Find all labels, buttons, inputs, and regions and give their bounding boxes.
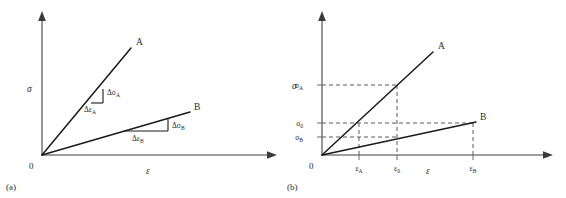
panel-a-curve-label-B: B — [194, 102, 200, 112]
panel-b-x-tick-label-eps-A: εA — [355, 164, 362, 174]
panel-b-x-tick-label-eps-0-sub: 0 — [397, 168, 400, 174]
panel-b-curve-label-A: A — [438, 41, 445, 51]
panel-a-delta-sigma-A-base: Δσ — [107, 88, 116, 97]
figure-root: A B σ ε 0 ΔσA ΔεA ΔσB ΔεB (a) — [0, 0, 566, 198]
panel-b-x-axis-label: ε — [426, 166, 430, 176]
panel-b-curve-B — [322, 122, 476, 155]
panel-b-curve-label-B: B — [480, 112, 486, 122]
panel-b-y-tick-label-sigma-0: σ0 — [296, 119, 303, 129]
panel-b-caption: (b) — [287, 182, 298, 192]
panel-a-curve-label-A: A — [136, 37, 143, 47]
panel-a-y-axis-label: σ — [27, 84, 32, 94]
panel-a-x-axis-label: ε — [146, 166, 150, 176]
panel-b: A B σ ε 0 σA σ0 σB εA ε0 εB (b) — [283, 0, 566, 198]
panel-a-delta-eps-A-sub: A — [92, 109, 96, 115]
panel-a-caption: (a) — [6, 182, 16, 192]
panel-a-origin-label: 0 — [29, 161, 34, 171]
panel-a-delta-eps-A-base: Δε — [84, 105, 92, 114]
panel-b-x-tick-label-eps-0: ε0 — [394, 164, 400, 174]
panel-b-y-tick-label-sigma-B: σB — [295, 133, 303, 143]
panel-b-y-tick-label-sigma-B-sub: B — [299, 137, 303, 143]
panel-a-delta-sigma-B-label: ΔσB — [172, 121, 185, 131]
panel-a-delta-eps-B-label: ΔεB — [132, 134, 144, 144]
panel-a-delta-sigma-A-sub: A — [116, 92, 120, 98]
panel-a-delta-sigma-B-base: Δσ — [172, 121, 181, 130]
panel-a-delta-eps-A-label: ΔεA — [84, 105, 96, 115]
panel-a-delta-eps-B-base: Δε — [132, 134, 140, 143]
panel-a-delta-sigma-A-label: ΔσA — [107, 88, 120, 98]
panel-a: A B σ ε 0 ΔσA ΔεA ΔσB ΔεB (a) — [0, 0, 283, 198]
panel-b-x-tick-label-eps-A-sub: A — [359, 168, 363, 174]
panel-b-y-tick-label-sigma-0-sub: 0 — [300, 123, 303, 129]
panel-b-y-tick-label-sigma-A-sub: A — [299, 85, 303, 91]
panel-b-x-tick-label-eps-B: εB — [470, 164, 477, 174]
panel-b-x-tick-label-eps-B-sub: B — [473, 168, 477, 174]
panel-a-delta-sigma-B-sub: B — [181, 125, 185, 131]
panel-b-origin-label: 0 — [309, 161, 314, 171]
panel-b-x-axis-arrow-icon — [543, 151, 553, 159]
panel-a-curve-A — [42, 48, 131, 155]
panel-b-curve-A — [322, 52, 433, 155]
panel-b-y-axis-arrow-icon — [318, 11, 326, 21]
panel-a-x-axis-arrow-icon — [267, 151, 277, 159]
panel-a-y-axis-arrow-icon — [38, 11, 46, 21]
panel-a-delta-eps-B-sub: B — [140, 138, 144, 144]
panel-b-y-tick-label-sigma-A: σA — [295, 81, 303, 91]
